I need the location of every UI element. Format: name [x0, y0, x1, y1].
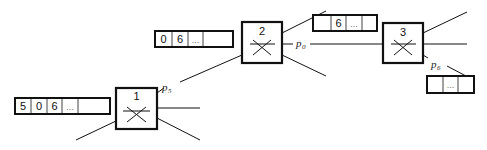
port-label-p0: p 0 [295, 37, 306, 51]
svg-text:p: p [161, 81, 168, 93]
svg-text:6: 6 [437, 64, 441, 72]
queue-cell: … [447, 81, 455, 90]
queue-cell: 0 [36, 100, 42, 112]
queue-2: 0 6 … [155, 31, 233, 47]
queue-cell: … [192, 36, 200, 45]
switch-1-label: 1 [133, 90, 139, 102]
queue-3: 6 … [313, 15, 377, 31]
svg-text:5: 5 [168, 87, 172, 95]
switch-1: 1 [116, 88, 157, 129]
queue-cell: 5 [20, 100, 26, 112]
switch-2-label: 2 [259, 25, 265, 37]
queue-cell: 0 [160, 33, 166, 45]
switch-3: 3 [383, 23, 423, 63]
port-label-p6: p 6 [430, 58, 441, 72]
svg-text:0: 0 [302, 43, 306, 51]
queue-cell: … [66, 103, 74, 112]
svg-text:p: p [430, 58, 437, 70]
queue-1: 5 0 6 … [15, 98, 110, 114]
queue-cell: 6 [335, 17, 341, 29]
switch-3-label: 3 [400, 26, 406, 38]
switch-2: 2 [242, 22, 282, 63]
port-label-p5: p 5 [161, 81, 172, 95]
queue-4: … [427, 76, 474, 93]
svg-text:p: p [295, 37, 302, 49]
diagram-canvas: 1 p 5 5 0 6 … 2 [0, 0, 487, 150]
queue-cell: 6 [177, 33, 183, 45]
queue-cell: 6 [51, 100, 57, 112]
queue-cell: … [350, 20, 358, 29]
switch-3-links [423, 12, 467, 76]
